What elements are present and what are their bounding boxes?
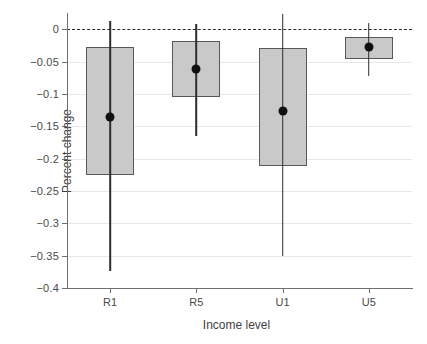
gridline: [67, 256, 412, 257]
x-tick-label: R5: [189, 296, 203, 308]
y-tick-label: −0.05: [30, 56, 59, 68]
y-axis-line: [67, 13, 68, 289]
x-tick-mark: [283, 288, 284, 293]
gridline: [67, 223, 412, 224]
zero-reference-line: [67, 29, 412, 30]
x-axis-line: [67, 288, 413, 289]
y-tick-label: −0.15: [30, 120, 59, 132]
estimate-point: [192, 64, 201, 73]
plot-area: 0−0.05−0.1−0.15−0.2−0.25−0.3−0.35−0.4 Pe…: [67, 13, 412, 288]
y-tick-label: −0.2: [36, 153, 59, 165]
whisker-line: [282, 14, 284, 256]
y-tick-label: −0.35: [30, 250, 59, 262]
estimate-point: [278, 107, 287, 116]
chart-figure: 0−0.05−0.1−0.15−0.2−0.25−0.3−0.35−0.4 Pe…: [0, 0, 427, 344]
y-tick-label: 0: [53, 23, 59, 35]
x-axis-label: Income level: [0, 318, 427, 332]
x-tick-mark: [369, 288, 370, 293]
y-tick-label: −0.3: [36, 217, 59, 229]
x-tick-label: U1: [276, 296, 290, 308]
whisker-line: [196, 24, 198, 136]
estimate-point: [364, 43, 373, 52]
x-tick-label: R1: [103, 296, 117, 308]
whisker-line: [109, 21, 111, 271]
estimate-point: [106, 113, 115, 122]
y-tick-label: −0.1: [36, 88, 59, 100]
y-tick-label: −0.4: [36, 282, 59, 294]
y-tick-label: −0.25: [30, 185, 59, 197]
x-tick-mark: [110, 288, 111, 293]
x-axis-label-text: Income level: [203, 318, 270, 332]
x-tick-label: U5: [362, 296, 376, 308]
x-tick-mark: [196, 288, 197, 293]
gridline: [67, 191, 412, 192]
